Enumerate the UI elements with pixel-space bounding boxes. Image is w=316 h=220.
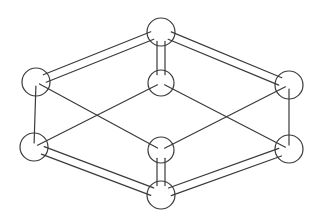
atom-inner-top — [148, 70, 174, 96]
edges-layer — [34, 84, 289, 148]
bottom-right-bar — [169, 148, 282, 195]
atom-inner-bottom — [148, 137, 174, 163]
top-right-bar — [168, 32, 282, 85]
lattice-diagram — [0, 0, 316, 220]
bonds-layer — [41, 32, 281, 196]
diag-lb-to-inner-top — [38, 85, 158, 145]
bottom-left-bar — [41, 147, 153, 196]
left-vertical — [34, 86, 36, 143]
top-left-bar — [43, 32, 153, 82]
diag-inner-bottom-to-rt — [165, 87, 286, 148]
diag-inner-top-to-rb — [165, 85, 286, 147]
atoms-layer — [20, 18, 303, 209]
